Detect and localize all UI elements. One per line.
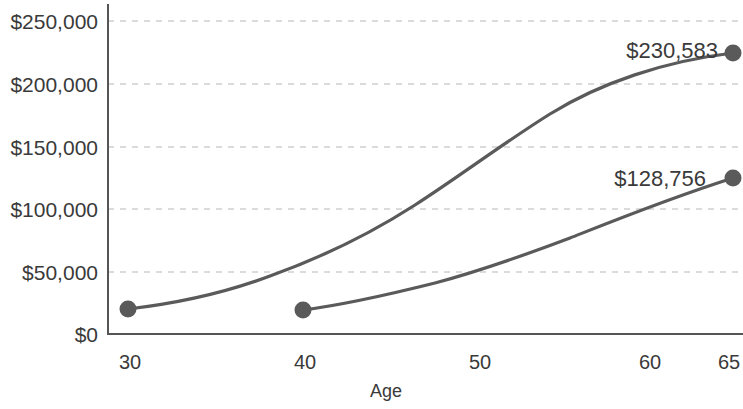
y-axis-tick-labels: $250,000 $200,000 $150,000 $100,000 $50,… [10, 10, 98, 346]
series-line-lower [303, 178, 733, 310]
y-tick-label-50000: $50,000 [22, 261, 98, 284]
y-tick-label-100000: $100,000 [10, 198, 98, 221]
retirement-savings-line-chart: $250,000 $200,000 $150,000 $100,000 $50,… [0, 0, 743, 409]
series-end-marker-age-65-lower [725, 170, 742, 187]
data-label-lower-endpoint: $128,756 [614, 166, 706, 191]
series-start-marker-age-40 [295, 302, 312, 319]
y-tick-label-150000: $150,000 [10, 136, 98, 159]
series-start-age-40 [295, 170, 742, 319]
x-tick-label-30: 30 [119, 351, 141, 373]
y-tick-label-200000: $200,000 [10, 73, 98, 96]
series-start-marker-age-30 [120, 301, 137, 318]
x-axis-tick-labels: 30 40 50 60 65 [119, 351, 740, 373]
x-tick-label-65: 65 [718, 351, 740, 373]
x-tick-label-50: 50 [469, 351, 491, 373]
x-tick-label-60: 60 [639, 351, 661, 373]
x-tick-label-40: 40 [294, 351, 316, 373]
x-axis-title: Age [370, 381, 402, 401]
y-tick-label-0: $0 [75, 323, 98, 346]
chart-canvas: $250,000 $200,000 $150,000 $100,000 $50,… [0, 0, 743, 409]
data-label-upper-endpoint: $230,583 [626, 38, 718, 63]
y-tick-label-250000: $250,000 [10, 10, 98, 33]
series-end-marker-age-65-upper [725, 45, 742, 62]
